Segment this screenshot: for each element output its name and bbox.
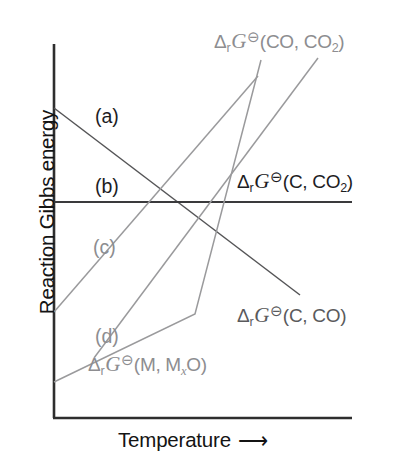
curve-label-m-mxo: ΔrG⊖(M, MxO) [88, 353, 207, 377]
species-text: (C, CO) [283, 305, 346, 326]
curve-label-c-co2: ΔrG⊖(C, CO2) [237, 170, 353, 194]
ellingham-diagram-figure: Reaction Gibbs energy Temperature ⟶ (a) … [0, 0, 403, 468]
curve-label-co-co2: ΔrG⊖(CO, CO2) [214, 30, 344, 54]
curve-tag-b: (b) [95, 177, 119, 197]
species-text: (CO, CO [260, 31, 332, 52]
subscript-2: 2 [340, 181, 347, 195]
x-axis-label-text: Temperature [118, 428, 231, 452]
gibbs-symbol: G [253, 303, 269, 327]
close-paren: O) [186, 354, 207, 375]
standard-state-icon: ⊖ [269, 303, 283, 319]
arrow-right-icon: ⟶ [238, 430, 268, 451]
close-paren: ) [338, 31, 344, 52]
delta-symbol: Δ [88, 354, 100, 375]
x-axis-label: Temperature ⟶ [118, 428, 268, 452]
close-paren: ) [347, 171, 353, 192]
delta-symbol: Δ [214, 31, 226, 52]
curve-label-c-co: ΔrG⊖(C, CO) [237, 304, 346, 328]
curve-tag-c: (c) [93, 238, 116, 258]
curve-tag-d: (d) [95, 327, 119, 347]
gibbs-symbol: G [230, 29, 246, 53]
delta-symbol: Δ [237, 171, 249, 192]
species-text: (C, CO [283, 171, 340, 192]
y-axis-label: Reaction Gibbs energy [35, 72, 59, 352]
species-text: (M, M [134, 354, 181, 375]
gibbs-symbol: G [253, 169, 269, 193]
gibbs-symbol: G [104, 352, 120, 376]
curve-tag-a: (a) [95, 107, 119, 127]
standard-state-icon: ⊖ [246, 29, 260, 45]
standard-state-icon: ⊖ [120, 352, 134, 368]
standard-state-icon: ⊖ [269, 169, 283, 185]
curve-c-ascending [54, 76, 258, 312]
plot-area [0, 0, 403, 468]
delta-symbol: Δ [237, 305, 249, 326]
